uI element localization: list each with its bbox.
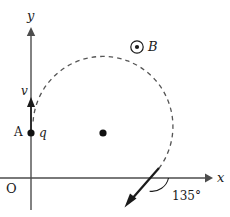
circular-trajectory-path [33, 56, 173, 169]
exit-velocity-arrow [125, 168, 160, 208]
velocity-label: v [21, 85, 28, 97]
magnetic-field-label: B [148, 40, 158, 53]
magnetic-field-out-of-page-icon [131, 41, 143, 53]
charge-dot-a [27, 129, 34, 136]
angle-arc-135 [150, 178, 169, 191]
exit-angle-label: 135° [172, 190, 201, 202]
charge-label: q [39, 127, 47, 139]
velocity-vector-arrow [27, 97, 35, 133]
x-axis-label: x [217, 171, 224, 184]
origin-label: O [6, 182, 17, 195]
circle-center-dot [99, 129, 106, 136]
y-axis-label: y [27, 9, 34, 22]
diagram-vector-layer [0, 0, 230, 217]
physics-diagram-canvas: y x O A q v B 135° [0, 0, 230, 217]
point-a-label: A [14, 126, 23, 138]
x-axis [0, 174, 213, 183]
